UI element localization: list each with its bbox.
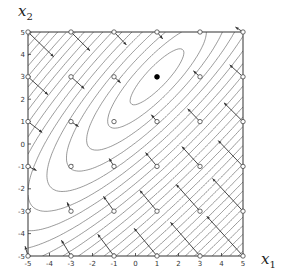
- x-tick-label: 0: [133, 260, 137, 268]
- y-axis-label: x2: [18, 2, 33, 22]
- sample-point-marker: [26, 30, 30, 34]
- sample-point-marker: [241, 119, 245, 123]
- x-tick-label: -3: [68, 260, 75, 268]
- y-tick-label: -1: [18, 163, 25, 171]
- sample-point-marker: [69, 75, 73, 79]
- arrow-head-icon: [25, 246, 28, 249]
- sample-point-marker: [241, 164, 245, 168]
- sample-point-marker: [112, 254, 116, 258]
- descent-arrow: [28, 32, 54, 57]
- sample-point-marker: [112, 75, 116, 79]
- x-tick-label: -5: [25, 260, 32, 268]
- y-tick-label: 5: [21, 29, 25, 37]
- descent-arrow: [98, 234, 114, 256]
- sample-point-marker: [241, 254, 245, 258]
- contour-lines: [28, 32, 243, 256]
- minimum-marker: [154, 74, 159, 79]
- sample-point-marker: [241, 75, 245, 79]
- sample-point-marker: [112, 119, 116, 123]
- sample-point-marker: [155, 164, 159, 168]
- sample-point-marker: [241, 209, 245, 213]
- sample-point-marker: [26, 75, 30, 79]
- sample-point-marker: [69, 254, 73, 258]
- x-tick-label: -4: [46, 260, 54, 268]
- x-tick-label: -1: [111, 260, 118, 268]
- descent-arrow: [218, 141, 243, 167]
- sample-point-marker: [198, 30, 202, 34]
- descent-arrow: [182, 147, 200, 167]
- y-tick-label: 0: [21, 141, 25, 149]
- y-tick-label: -2: [18, 185, 25, 193]
- x-tick-label: 5: [241, 260, 245, 268]
- descent-arrow: [71, 32, 90, 51]
- descent-arrow: [224, 103, 243, 122]
- sample-point-marker: [198, 75, 202, 79]
- y-tick-label: 2: [21, 96, 25, 104]
- x-tick-label: 2: [176, 260, 180, 268]
- x-tick-label: 1: [155, 260, 159, 268]
- sample-point-marker: [69, 209, 73, 213]
- sample-point-marker: [155, 254, 159, 258]
- descent-arrow: [140, 190, 157, 211]
- sample-point-marker: [69, 119, 73, 123]
- y-tick-label: -4: [18, 230, 26, 238]
- sample-point-marker: [112, 209, 116, 213]
- x-tick-label: -2: [89, 260, 96, 268]
- sample-point-marker: [198, 209, 202, 213]
- y-tick-label: 3: [21, 73, 25, 81]
- sample-point-marker: [69, 30, 73, 34]
- y-tick-label: -3: [18, 208, 25, 216]
- sample-point-marker: [26, 254, 30, 258]
- sample-point-marker: [155, 209, 159, 213]
- y-tick-label: -5: [18, 253, 25, 261]
- contour-path: [28, 32, 243, 256]
- sample-point-marker: [198, 119, 202, 123]
- sample-point-marker: [112, 30, 116, 34]
- sample-point-marker: [112, 164, 116, 168]
- contour-plot: -5-4-3-2-1012345-5-4-3-2-1012345: [0, 0, 291, 279]
- sample-point-marker: [155, 119, 159, 123]
- sample-point-marker: [198, 164, 202, 168]
- x-axis-label: x1: [261, 250, 276, 270]
- x-tick-label: 4: [219, 260, 224, 268]
- sample-point-marker: [69, 164, 73, 168]
- x-tick-label: 3: [198, 260, 202, 268]
- sample-point-marker: [26, 209, 30, 213]
- sample-point-marker: [26, 119, 30, 123]
- sample-point-marker: [155, 30, 159, 34]
- sample-point-marker: [26, 164, 30, 168]
- descent-arrow: [176, 184, 200, 211]
- y-tick-label: 4: [21, 51, 26, 59]
- sample-point-marker: [198, 254, 202, 258]
- descent-arrow: [28, 77, 48, 95]
- y-tick-label: 1: [21, 118, 25, 126]
- descent-arrow: [170, 222, 200, 256]
- sample-point-marker: [241, 30, 245, 34]
- plot-frame: [28, 32, 243, 256]
